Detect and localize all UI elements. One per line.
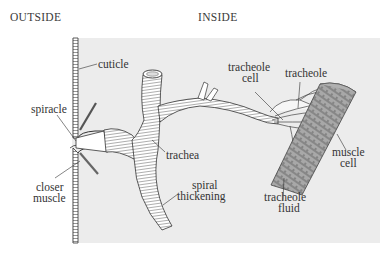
label-tracheole: tracheole [285,68,327,79]
trachea-diagram [0,0,390,253]
label-cuticle: cuticle [98,59,129,70]
label-trachea: trachea [166,150,199,161]
label-spiral-thickening-2: thickening [177,191,226,202]
label-tracheole-fluid-2: fluid [278,203,300,214]
label-tracheole-cell-2: cell [242,73,259,84]
label-muscle-cell-2: cell [340,158,357,169]
label-closer-muscle-2: muscle [33,193,66,204]
label-spiracle: spiracle [31,104,67,115]
